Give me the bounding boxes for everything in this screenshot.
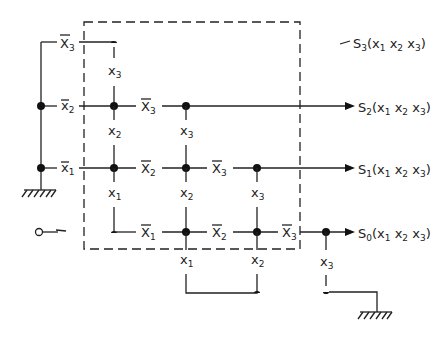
- left-bus: [37, 42, 57, 190]
- svg-text:x3: x3: [108, 63, 121, 80]
- svg-text:x3: x3: [251, 185, 264, 202]
- switching-network-diagram: X3 x3 x2 x2 X3 x3 x1 x1 X2 x2 X3 x3 X1 X…: [0, 0, 438, 339]
- output-s2: S2(x1 x2 x3): [358, 100, 431, 117]
- contact-nx3-top: X3: [60, 36, 75, 53]
- svg-text:x2: x2: [251, 252, 264, 269]
- ground-symbol-right: [358, 312, 392, 319]
- output-s1: S1(x1 x2 x3): [358, 162, 431, 179]
- svg-text:X3: X3: [282, 225, 297, 242]
- output-labels: S3(x1 x2 x3) S2(x1 x2 x3) S1(x1 x2 x3) S…: [353, 36, 431, 243]
- svg-text:X2: X2: [212, 225, 227, 242]
- svg-text:x3: x3: [320, 254, 333, 271]
- svg-text:X1: X1: [141, 225, 156, 242]
- svg-text:x3: x3: [180, 123, 193, 140]
- svg-text:X3: X3: [141, 99, 156, 116]
- contact-labels: X3 x3 x2 x2 X3 x3 x1 x1 X2 x2 X3 x3 X1 X…: [60, 35, 333, 271]
- ground-symbol-left: [22, 190, 56, 197]
- diagram-svg: X3 x3 x2 x2 X3 x3 x1 x1 X2 x2 X3 x3 X1 X…: [0, 0, 438, 339]
- svg-text:x2: x2: [180, 185, 193, 202]
- svg-text:x2: x2: [108, 123, 121, 140]
- output-s3: S3(x1 x2 x3): [353, 36, 426, 53]
- svg-text:x1: x1: [108, 185, 121, 202]
- input-terminal: [36, 229, 67, 236]
- output-s0: S0(x1 x2 x3): [358, 226, 431, 243]
- svg-text:x1: x1: [180, 252, 193, 269]
- svg-text:X2: X2: [141, 161, 156, 178]
- svg-text:X3: X3: [212, 161, 227, 178]
